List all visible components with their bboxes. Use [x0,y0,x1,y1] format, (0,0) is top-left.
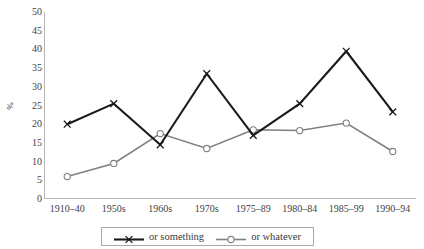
legend-item[interactable]: or something [114,231,204,242]
x-tick-label: 1960s [137,202,184,218]
data-point-marker [343,120,349,126]
legend-x-marker-icon [114,231,144,242]
plot-svg [44,12,416,199]
data-point-marker [64,173,70,179]
y-tick-label: 10 [4,157,42,167]
x-tick-label: 1990–94 [370,202,417,218]
x-axis-tick-labels: 1910–401950s1960s1970s1975–891980–841985… [44,202,416,218]
y-tick-label: 40 [4,44,42,54]
data-point-marker [343,48,350,55]
y-tick-label: 35 [4,63,42,73]
legend-item[interactable]: or whatever [216,231,301,242]
series-line [67,51,393,145]
legend-label: or whatever [251,231,301,242]
data-point-marker [389,108,396,115]
y-axis-tick-labels: 50454035302520151050 [0,0,42,249]
data-point-marker [390,148,396,154]
y-tick-label: 20 [4,119,42,129]
x-tick-label: 1980–84 [277,202,324,218]
data-point-marker [204,145,210,151]
series-or-whatever [64,120,396,180]
data-point-marker [297,127,303,133]
data-point-marker [296,100,303,107]
x-tick-label: 1985–99 [323,202,370,218]
legend-circle-marker-icon [216,231,246,242]
x-tick-label: 1910–40 [44,202,91,218]
y-tick-label: 5 [4,175,42,185]
y-tick-label: 0 [4,194,42,204]
data-point-marker [157,130,163,136]
x-tick-label: 1975–89 [230,202,277,218]
line-chart: % 50454035302520151050 1910–401950s1960s… [0,0,424,249]
chart-legend: or somethingor whatever [101,227,314,246]
series-or-something [64,48,396,148]
y-tick-label: 15 [4,138,42,148]
plot-area [44,12,416,199]
data-point-marker [203,70,210,77]
data-point-marker [157,141,164,148]
y-tick-label: 30 [4,82,42,92]
x-tick-label: 1950s [91,202,138,218]
y-tick-label: 50 [4,7,42,17]
y-tick-label: 25 [4,101,42,111]
data-point-marker [111,160,117,166]
legend-label: or something [149,231,204,242]
series-line [67,123,393,176]
y-tick-label: 45 [4,26,42,36]
x-tick-label: 1970s [184,202,231,218]
